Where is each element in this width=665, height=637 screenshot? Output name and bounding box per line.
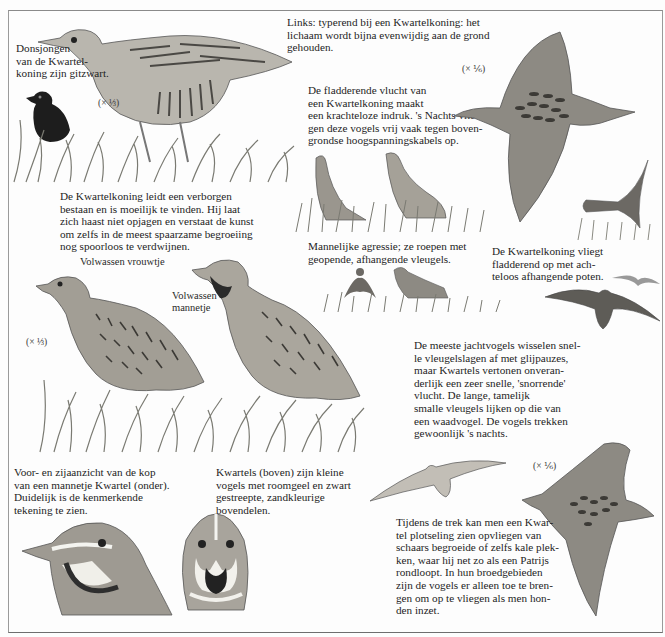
caption-hidden-life: De Kwartelkoning leidt een verborgen bes… [60,190,330,253]
caption-heads: Voor- en zijaanzicht van de kop van een … [14,466,214,516]
grass-top-left [14,120,304,182]
label-female: Volwassen vrouwtje [80,256,165,268]
caption-chick: Donsjongen van de Kwartel- koning zijn g… [16,42,126,80]
quail-head-front-illustration [170,510,260,610]
caption-quail-flight: De meeste jachtvogels wisselen snel- le … [414,339,654,440]
corncrake-glide-illustration [545,285,660,335]
caption-quail-desc: Kwartels (boven) zijn kleine vogels met … [216,466,376,516]
caption-migration: Tijdens de trek kan men een Kwar- tel pl… [396,516,606,617]
scale-corncrake-walking: (× ⅓) [98,98,119,108]
grass-quails [40,380,370,452]
quail-head-side-illustration [22,515,172,615]
quail-gliding-illustration [370,445,510,505]
takeoff-corncrake-illustration [578,160,658,240]
